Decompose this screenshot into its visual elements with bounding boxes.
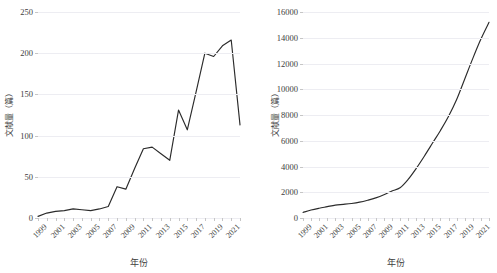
x-tick-mark <box>135 218 136 221</box>
x-tick-mark <box>73 218 74 221</box>
x-tick-mark <box>126 218 127 221</box>
x-tick-mark <box>384 218 385 221</box>
y-tick-label: 12000 <box>277 59 298 68</box>
x-tick-mark <box>327 218 328 221</box>
gridline <box>303 12 489 13</box>
plot-area-left <box>38 12 240 218</box>
gridline <box>38 136 240 137</box>
x-tick-mark <box>392 218 393 221</box>
x-axis-title-right: 年份 <box>303 258 489 268</box>
y-tick-mark <box>35 12 38 13</box>
y-tick-mark <box>35 94 38 95</box>
gridline <box>303 115 489 116</box>
x-tick-mark <box>99 218 100 221</box>
x-tick-mark <box>319 218 320 221</box>
x-tick-mark <box>117 218 118 221</box>
y-tick-mark <box>300 192 303 193</box>
gridline <box>303 38 489 39</box>
x-tick-mark <box>440 218 441 221</box>
series-line-left <box>38 12 240 218</box>
chart-left: 050100150200250 199920012003200520072009… <box>0 0 248 273</box>
y-tick-mark <box>35 53 38 54</box>
gridline <box>303 141 489 142</box>
x-tick-mark <box>179 218 180 221</box>
x-tick-mark <box>343 218 344 221</box>
x-tick-mark <box>240 218 241 221</box>
x-tick-mark <box>473 218 474 221</box>
x-tick-mark <box>56 218 57 221</box>
y-tick-mark <box>300 141 303 142</box>
x-tick-mark <box>64 218 65 221</box>
x-tick-mark <box>170 218 171 221</box>
x-tick-mark <box>108 218 109 221</box>
x-tick-mark <box>222 218 223 221</box>
y-tick-mark <box>300 64 303 65</box>
y-tick-label: 150 <box>20 90 33 99</box>
x-tick-mark <box>187 218 188 221</box>
y-tick-label: 2000 <box>281 188 298 197</box>
x-tick-mark <box>376 218 377 221</box>
gridline <box>303 218 489 219</box>
gridline <box>303 192 489 193</box>
y-tick-label: 4000 <box>281 162 298 171</box>
plot-area-right <box>303 12 489 218</box>
gridline <box>38 53 240 54</box>
y-tick-label: 250 <box>20 8 33 17</box>
x-tick-mark <box>303 218 304 221</box>
x-tick-mark <box>368 218 369 221</box>
x-tick-mark <box>311 218 312 221</box>
y-tick-label: 0 <box>294 214 298 223</box>
x-tick-mark <box>231 218 232 221</box>
y-tick-mark <box>300 38 303 39</box>
gridline <box>303 64 489 65</box>
y-tick-label: 8000 <box>281 111 298 120</box>
x-tick-mark <box>400 218 401 221</box>
x-tick-mark <box>47 218 48 221</box>
chart-right: 0200040006000800010000120001400016000 19… <box>249 0 497 273</box>
x-tick-mark <box>161 218 162 221</box>
x-tick-mark <box>481 218 482 221</box>
x-tick-mark <box>416 218 417 221</box>
x-tick-mark <box>91 218 92 221</box>
gridline <box>303 89 489 90</box>
gridline <box>38 94 240 95</box>
x-tick-mark <box>352 218 353 221</box>
x-tick-mark <box>408 218 409 221</box>
x-tick-mark <box>449 218 450 221</box>
y-tick-mark <box>35 177 38 178</box>
y-tick-mark <box>35 136 38 137</box>
y-tick-mark <box>300 167 303 168</box>
gridline <box>303 167 489 168</box>
x-tick-mark <box>82 218 83 221</box>
x-tick-mark <box>214 218 215 221</box>
y-tick-label: 200 <box>20 49 33 58</box>
x-tick-mark <box>38 218 39 221</box>
x-tick-mark <box>335 218 336 221</box>
x-tick-mark <box>424 218 425 221</box>
x-tick-mark <box>432 218 433 221</box>
y-tick-label: 0 <box>29 214 33 223</box>
y-tick-label: 16000 <box>277 8 298 17</box>
x-tick-mark <box>465 218 466 221</box>
x-tick-mark <box>205 218 206 221</box>
figure-sheet: 050100150200250 199920012003200520072009… <box>0 0 497 273</box>
x-tick-mark <box>143 218 144 221</box>
x-tick-mark <box>457 218 458 221</box>
y-tick-label: 100 <box>20 131 33 140</box>
y-tick-label: 50 <box>25 172 34 181</box>
x-axis-title-left: 年份 <box>38 258 240 268</box>
gridline <box>38 218 240 219</box>
y-tick-label: 14000 <box>277 33 298 42</box>
y-tick-mark <box>300 115 303 116</box>
x-tick-mark <box>152 218 153 221</box>
x-tick-mark <box>360 218 361 221</box>
y-tick-label: 6000 <box>281 136 298 145</box>
y-tick-mark <box>300 12 303 13</box>
gridline <box>38 177 240 178</box>
y-axis-title-left: 文献量（篇） <box>5 83 14 143</box>
x-tick-mark <box>489 218 490 221</box>
y-tick-mark <box>300 89 303 90</box>
y-axis-title-right: 文献量（篇） <box>271 83 280 143</box>
x-tick-mark <box>196 218 197 221</box>
y-tick-label: 10000 <box>277 85 298 94</box>
